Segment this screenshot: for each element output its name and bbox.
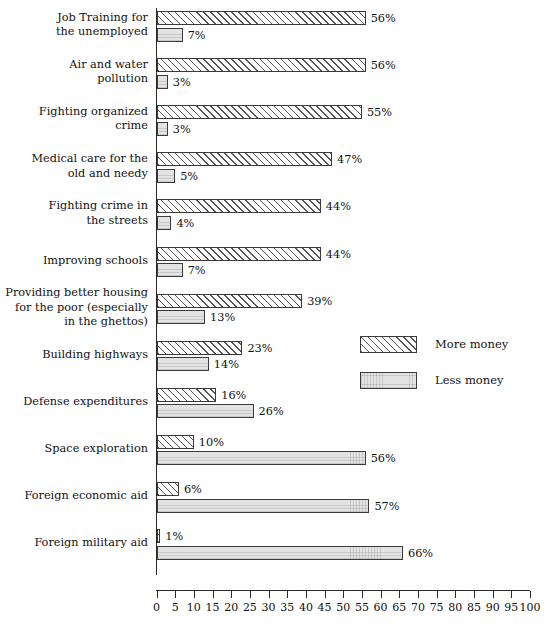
bar-less-money [157,75,168,89]
bar-more-money [157,294,303,308]
bar-more-money [157,105,362,119]
x-tick-label: 85 [467,601,481,614]
bar-value-more-money: 44% [326,248,351,261]
bar-value-less-money: 3% [173,76,191,89]
x-tick [437,591,438,598]
category-label: Providing better housing for the poor (e… [2,286,148,330]
bar-value-less-money: 7% [188,29,206,42]
bar-value-less-money: 26% [259,405,284,418]
x-tick [287,591,288,598]
bar-value-less-money: 66% [408,547,433,560]
category-label: Improving schools [2,254,148,269]
bar-less-money [157,451,366,465]
bar-more-money [157,58,366,72]
category-label: Foreign military aid [2,536,148,551]
horizontal-bar-chart: 0510152025303540455055606570758085909510… [0,0,551,631]
legend-label-more-money: More money [435,337,508,351]
bar-value-less-money: 14% [214,358,239,371]
bar-less-money [157,310,206,324]
x-tick-label: 20 [224,601,238,614]
bar-more-money [157,435,194,449]
x-tick [530,591,531,598]
x-tick-label: 90 [486,601,500,614]
bar-less-money [157,216,172,230]
legend-swatch-less-money-icon [360,372,417,389]
bar-less-money [157,122,168,136]
category-label: Foreign economic aid [2,489,148,504]
bar-less-money [157,28,183,42]
category-label: Space exploration [2,442,148,457]
legend-swatch-more-money-icon [360,336,417,353]
x-tick [455,591,456,598]
bar-more-money [157,152,333,166]
x-tick [157,591,158,598]
x-tick-label: 35 [280,601,294,614]
x-tick [269,591,270,598]
x-tick [343,591,344,598]
x-tick [493,591,494,598]
bar-value-more-money: 47% [337,153,362,166]
bar-more-money [157,247,321,261]
x-tick-label: 45 [318,601,332,614]
bar-value-less-money: 3% [173,123,191,136]
x-tick [418,591,419,598]
x-tick-label: 75 [430,601,444,614]
bar-less-money [157,404,254,418]
x-tick [306,591,307,598]
category-label: Medical care for the old and needy [2,152,148,181]
x-tick-label: 100 [520,601,541,614]
bar-more-money [157,11,366,25]
category-label: Air and water pollution [2,58,148,87]
bar-value-more-money: 10% [199,436,224,449]
x-tick-label: 10 [187,601,201,614]
x-tick-label: 25 [243,601,257,614]
x-tick [381,591,382,598]
x-tick-label: 95 [504,601,518,614]
x-tick-label: 0 [153,601,160,614]
x-tick [325,591,326,598]
bar-more-money [157,529,161,543]
bar-value-less-money: 4% [176,217,194,230]
x-tick-label: 15 [206,601,220,614]
x-tick-label: 55 [355,601,369,614]
bar-more-money [157,388,217,402]
category-label: Building highways [2,348,148,363]
bar-less-money [157,169,176,183]
x-tick [194,591,195,598]
category-label: Defense expenditures [2,395,148,410]
x-tick-label: 70 [411,601,425,614]
x-tick [231,591,232,598]
bar-less-money [157,546,404,560]
bar-value-more-money: 39% [307,295,332,308]
bar-value-more-money: 1% [165,530,183,543]
x-tick [213,591,214,598]
x-tick [474,591,475,598]
bar-value-more-money: 56% [371,12,396,25]
x-tick [511,591,512,598]
x-tick [399,591,400,598]
x-tick-label: 80 [448,601,462,614]
bar-value-more-money: 16% [221,389,246,402]
x-tick-label: 40 [299,601,313,614]
bar-less-money [157,499,370,513]
x-tick [362,591,363,598]
bar-more-money [157,199,321,213]
bar-less-money [157,357,209,371]
x-tick-label: 50 [336,601,350,614]
category-label: Fighting organized crime [2,105,148,134]
bar-less-money [157,263,183,277]
category-label: Fighting crime in the streets [2,199,148,228]
x-tick-label: 60 [374,601,388,614]
bar-value-more-money: 44% [326,200,351,213]
x-tick-label: 30 [262,601,276,614]
x-tick-label: 5 [172,601,179,614]
x-tick [250,591,251,598]
x-tick-label: 65 [392,601,406,614]
bar-value-less-money: 7% [188,264,206,277]
bar-value-more-money: 56% [371,59,396,72]
bar-value-more-money: 55% [367,106,392,119]
bar-value-less-money: 5% [180,170,198,183]
bar-value-less-money: 13% [210,311,235,324]
x-tick [175,591,176,598]
bar-value-less-money: 57% [374,500,399,513]
